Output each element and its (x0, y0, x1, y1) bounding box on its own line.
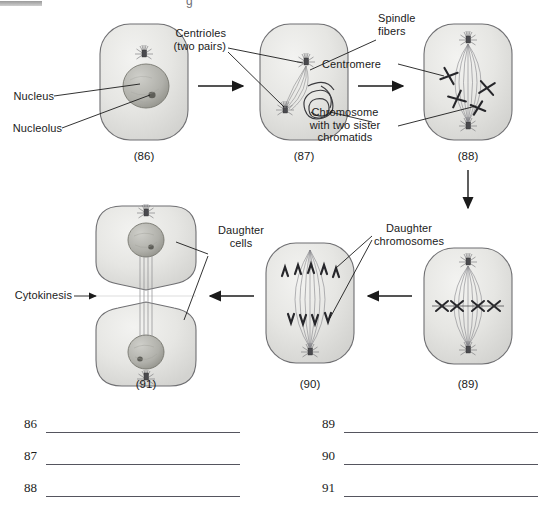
page-header-bar-fragment (0, 1, 42, 6)
worksheet-canvas: g (0, 0, 543, 509)
answer-number-89: 89 (322, 416, 335, 432)
figure-caption-87: (87) (274, 150, 334, 162)
answer-blank-87[interactable] (46, 464, 240, 465)
page-header-text-fragment: g (186, 0, 193, 8)
figure-caption-86: (86) (114, 150, 174, 162)
cell-figure-89 (424, 248, 512, 364)
label-daughter-chromosomes: Daughter chromosomes (360, 222, 458, 247)
answer-blank-91[interactable] (344, 496, 538, 497)
label-chromosome-sister-chromatids: Chromosome with two sister chromatids (303, 106, 387, 144)
answer-blank-89[interactable] (344, 432, 538, 433)
figure-caption-90: (90) (280, 378, 340, 390)
cell-figure-91 (74, 204, 208, 386)
answer-number-90: 90 (322, 448, 335, 464)
cell-figure-88 (398, 24, 512, 140)
figure-caption-91: (91) (116, 378, 176, 390)
answer-number-86: 86 (24, 416, 37, 432)
answer-number-88: 88 (24, 480, 37, 496)
answer-blank-88[interactable] (46, 496, 240, 497)
label-nucleolus: Nucleolus (2, 122, 62, 135)
figure-caption-89: (89) (438, 378, 498, 390)
answer-number-91: 91 (322, 480, 335, 496)
label-cytokinesis: Cytokinesis (0, 289, 72, 302)
label-daughter-cells: Daughter cells (210, 224, 272, 249)
cell-figure-90 (266, 236, 372, 363)
label-centrioles: Centrioles (two pairs) (150, 27, 226, 52)
label-nucleus: Nucleus (2, 90, 54, 103)
mitosis-diagram (0, 0, 543, 404)
label-spindle-fibers: Spindle fibers (378, 12, 438, 37)
answer-lines-section: 86 87 88 89 90 91 (0, 404, 543, 509)
answer-blank-86[interactable] (46, 432, 240, 433)
answer-number-87: 87 (24, 448, 37, 464)
figure-caption-88: (88) (438, 150, 498, 162)
answer-blank-90[interactable] (344, 464, 538, 465)
label-centromere: Centromere (322, 58, 396, 71)
